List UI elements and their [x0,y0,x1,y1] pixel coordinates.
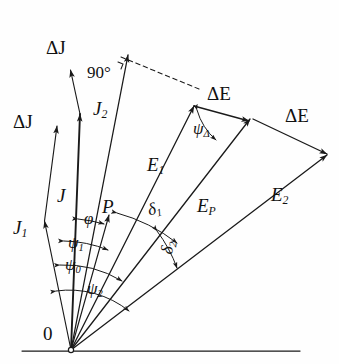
label-psi-delta: ψΔ [193,120,210,139]
label-J: J [57,186,65,205]
vector-diagram-figure: ΔJ ΔJ J2 J J1 P E1 EP E2 ΔE ΔE 90° φ ψ1 … [0,0,339,364]
label-delta-E-upper: ΔE [207,84,231,103]
label-E2: E2 [271,185,289,207]
vector-E1 [71,106,194,350]
label-delta-J-lower: ΔJ [13,112,33,131]
label-delta-J-upper: ΔJ [46,38,66,57]
dashed-construction-line [121,57,199,89]
origin-point [68,347,73,352]
label-EP: EP [197,196,216,218]
label-phi: φ [84,210,93,227]
label-psi0: ψ0 [65,256,81,275]
right-angle-tick [118,62,123,69]
label-E1: E1 [147,155,165,177]
label-J2: J2 [93,99,107,121]
vector-delta-J-lower [45,126,58,221]
label-psi1: ψ1 [68,234,84,253]
label-psi2: ψ2 [87,280,103,299]
label-delta2: δ2 [158,240,179,256]
label-angle-90: 90° [87,64,111,81]
label-J1: J1 [13,218,27,240]
label-origin: 0 [43,324,53,343]
label-delta-E-right: ΔE [285,106,309,125]
arc-delta1 [117,213,177,243]
vector-J [71,114,80,350]
vector-delta-J-upper [71,70,81,114]
label-P: P [102,197,114,216]
